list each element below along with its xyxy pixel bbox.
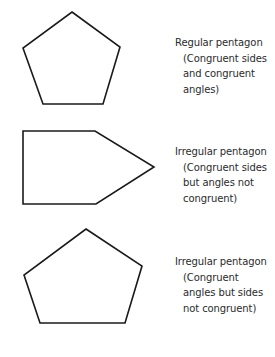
caption-description: (Congruent sides but angles not congruen… <box>175 160 275 207</box>
irregular-pentagon-angles-caption: Irregular pentagon (Congruent angles but… <box>175 254 275 316</box>
irregular-pentagon-sides-caption: Irregular pentagon (Congruent sides but … <box>175 144 275 206</box>
irregular-pentagon-equal-angles-shape <box>24 229 142 323</box>
irregular-pentagon-equal-sides-shape <box>23 131 154 204</box>
regular-pentagon-caption: Regular pentagon (Congruent sides and co… <box>175 35 275 97</box>
caption-description: (Congruent angles but sides not congruen… <box>175 270 275 317</box>
caption-title: Irregular pentagon <box>175 144 275 160</box>
regular-pentagon-shape <box>23 12 120 104</box>
caption-title: Irregular pentagon <box>175 254 275 270</box>
caption-description: (Congruent sides and congruent angles) <box>175 51 275 98</box>
pentagon-types-figure: Regular pentagon (Congruent sides and co… <box>0 0 275 357</box>
caption-title: Regular pentagon <box>175 35 275 51</box>
